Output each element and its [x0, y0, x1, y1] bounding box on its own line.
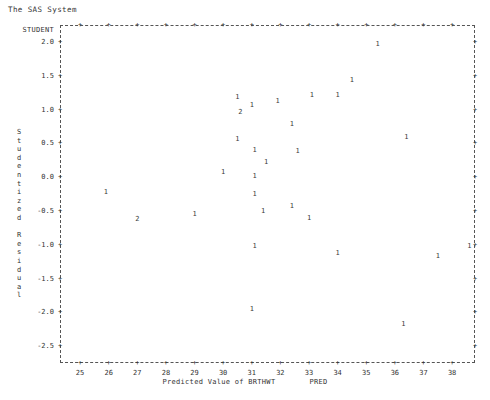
- x-axis-tick-label: 32: [276, 369, 284, 377]
- y-axis-variable-label: STUDENT: [8, 26, 54, 34]
- scatter-point: 2: [135, 216, 139, 223]
- scatter-point: 2: [238, 109, 242, 116]
- y-axis-tick-label: -0.5: [8, 207, 54, 215]
- axis-right-border: [474, 25, 475, 363]
- scatter-point: 1: [253, 147, 257, 154]
- x-axis-tick-mark: +: [221, 360, 225, 367]
- x-axis-tick-mark: +: [78, 360, 82, 367]
- y-axis-tick-label: -1.5: [8, 275, 54, 283]
- x-axis-tick-label: 37: [419, 369, 427, 377]
- x-axis-tick-label: 29: [190, 369, 198, 377]
- scatter-point: 1: [467, 243, 471, 250]
- y-axis-tick-label: -1.0: [8, 241, 54, 249]
- scatter-point: 1: [250, 102, 254, 109]
- scatter-point: 1: [310, 91, 314, 98]
- x-axis-tick-label: 25: [76, 369, 84, 377]
- scatter-point: 1: [253, 191, 257, 198]
- sas-plot-page: The SAS System STUDENT Studentized Resid…: [0, 0, 490, 400]
- x-axis-tick-mark: +: [192, 360, 196, 367]
- x-axis-tick-label: 26: [104, 369, 112, 377]
- x-axis-tick-label: 38: [448, 369, 456, 377]
- y-axis-tick-label: 0.0: [8, 173, 54, 181]
- axis-top-border: [60, 25, 475, 26]
- page-title: The SAS System: [8, 5, 77, 14]
- scatter-point: 1: [336, 249, 340, 256]
- x-axis-tick-mark: +: [250, 360, 254, 367]
- y-axis-title-char: i: [14, 188, 24, 197]
- y-axis-title-char: i: [14, 257, 24, 266]
- y-axis-title-char: S: [14, 128, 24, 137]
- scatter-point: 1: [404, 133, 408, 140]
- y-axis-tick-label: 2.0: [8, 38, 54, 46]
- x-axis-tick-mark: +: [336, 360, 340, 367]
- y-axis-tick-label: -2.0: [8, 308, 54, 316]
- scatter-point: 1: [235, 94, 239, 101]
- x-axis-tick-label: 36: [391, 369, 399, 377]
- axis-left-border: [60, 25, 61, 363]
- scatter-point: 1: [295, 148, 299, 155]
- x-axis-tick-label: 31: [248, 369, 256, 377]
- plot-area: 11111112111111111111112111111 ++++++++++…: [60, 25, 475, 363]
- scatter-point: 1: [336, 92, 340, 99]
- y-axis-title-char: d: [14, 214, 24, 223]
- y-axis-title-char: R: [14, 231, 24, 240]
- scatter-point: 1: [436, 252, 440, 259]
- x-axis-tick-mark: +: [364, 360, 368, 367]
- x-axis-tick-mark: +: [135, 360, 139, 367]
- x-axis-tick-mark: +: [164, 360, 168, 367]
- scatter-point: 1: [261, 207, 265, 214]
- scatter-point: 1: [264, 159, 268, 166]
- y-axis-title-char: e: [14, 162, 24, 171]
- x-axis-tick-label: 33: [305, 369, 313, 377]
- scatter-point: 1: [250, 305, 254, 312]
- scatter-point: 1: [401, 321, 405, 328]
- x-axis-title: Predicted Value of BRTHWTPRED: [0, 378, 490, 386]
- scatter-point: 1: [376, 40, 380, 47]
- axis-bottom-border: [60, 362, 475, 363]
- x-axis-tick-mark: +: [450, 360, 454, 367]
- x-axis-tick-mark: +: [393, 360, 397, 367]
- x-axis-tick-mark: +: [278, 360, 282, 367]
- y-axis-tick-label: 1.5: [8, 72, 54, 80]
- x-axis-tick-mark: +: [307, 360, 311, 367]
- x-axis-title-suffix: PRED: [309, 378, 327, 386]
- x-axis-tick-mark: +: [107, 360, 111, 367]
- scatter-point: 1: [253, 172, 257, 179]
- y-axis-tick-label: -2.5: [8, 342, 54, 350]
- y-axis-title-char: d: [14, 266, 24, 275]
- y-axis-tick-label: 1.0: [8, 106, 54, 114]
- y-axis-tick-label: 0.5: [8, 139, 54, 147]
- x-axis-tick-label: 28: [162, 369, 170, 377]
- scatter-point: 1: [253, 243, 257, 250]
- scatter-point: 1: [221, 168, 225, 175]
- x-axis-tick-label: 34: [333, 369, 341, 377]
- y-axis-title-char: z: [14, 197, 24, 206]
- scatter-point: 1: [290, 203, 294, 210]
- y-axis-title-char: d: [14, 154, 24, 163]
- y-axis-title-char: s: [14, 248, 24, 257]
- x-axis-tick-mark: +: [421, 360, 425, 367]
- scatter-point: 1: [104, 188, 108, 195]
- scatter-point: 1: [307, 214, 311, 221]
- scatter-point: 1: [290, 121, 294, 128]
- x-axis-tick-label: 30: [219, 369, 227, 377]
- x-axis-tick-label: 35: [362, 369, 370, 377]
- y-axis-title-char: l: [14, 291, 24, 300]
- scatter-point: 1: [192, 211, 196, 218]
- scatter-point: 1: [275, 97, 279, 104]
- scatter-point: 1: [235, 136, 239, 143]
- scatter-point: 1: [350, 77, 354, 84]
- x-axis-title-main: Predicted Value of BRTHWT: [163, 378, 276, 386]
- x-axis-tick-label: 27: [133, 369, 141, 377]
- y-axis-title-char: [14, 223, 24, 232]
- y-axis-title-char: a: [14, 283, 24, 292]
